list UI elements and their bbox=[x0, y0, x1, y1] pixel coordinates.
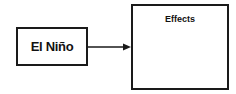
effects-box: Effects bbox=[131, 4, 229, 90]
arrow-icon bbox=[88, 42, 132, 52]
cause-label: El Niño bbox=[31, 39, 74, 54]
cause-box: El Niño bbox=[16, 27, 88, 66]
effects-label: Effects bbox=[133, 14, 227, 24]
